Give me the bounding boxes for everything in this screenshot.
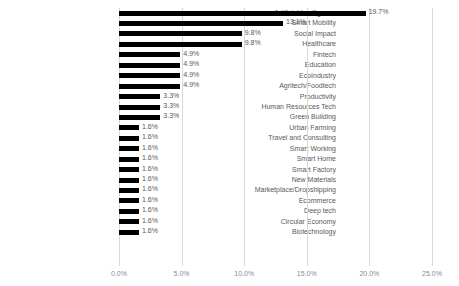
bar-value-label: 4.9%: [183, 59, 199, 69]
bar: [119, 230, 139, 235]
x-tick-label: 15.0%: [297, 269, 317, 279]
bar-row: 1.6%: [119, 123, 432, 133]
bar: [119, 94, 160, 99]
bar-value-label: 1.6%: [142, 132, 158, 142]
x-tick-label: 5.0%: [174, 269, 190, 279]
bar-value-label: 1.6%: [142, 226, 158, 236]
bar: [119, 115, 160, 120]
bar: [119, 209, 139, 214]
bar-row: 1.6%: [119, 217, 432, 227]
bar-row: 13.1%: [119, 18, 432, 28]
bar: [119, 11, 366, 16]
bar-row: 4.9%: [119, 50, 432, 60]
bar-row: 1.6%: [119, 185, 432, 195]
bar-value-label: 4.9%: [183, 49, 199, 59]
bar-row: 19.7%: [119, 8, 432, 18]
bar-value-label: 1.6%: [142, 122, 158, 132]
bar-row: 4.9%: [119, 60, 432, 70]
bar-chart: Artificial IntelligenceSmart MobilitySoc…: [0, 0, 459, 286]
bar-row: 1.6%: [119, 165, 432, 175]
bar: [119, 188, 139, 193]
bar: [119, 84, 180, 89]
bar-row: 1.6%: [119, 154, 432, 164]
bar-row: 9.8%: [119, 29, 432, 39]
bar: [119, 63, 180, 68]
bar-value-label: 1.6%: [142, 143, 158, 153]
bar-value-label: 1.6%: [142, 195, 158, 205]
x-axis-ticks: 0.0%5.0%10.0%15.0%20.0%25.0%: [0, 269, 459, 283]
bar: [119, 42, 242, 47]
bar-value-label: 4.9%: [183, 80, 199, 90]
bar-value-label: 9.8%: [245, 28, 261, 38]
x-tick-label: 20.0%: [359, 269, 379, 279]
bar-value-label: 13.1%: [286, 17, 306, 27]
bar: [119, 31, 242, 36]
bar-row: 1.6%: [119, 144, 432, 154]
bar-value-label: 3.3%: [163, 101, 179, 111]
bar: [119, 136, 139, 141]
bar-value-label: 3.3%: [163, 91, 179, 101]
x-tick-label: 25.0%: [422, 269, 442, 279]
bar-row: 1.6%: [119, 175, 432, 185]
bar: [119, 219, 139, 224]
bar-row: 1.6%: [119, 196, 432, 206]
bar-row: 1.6%: [119, 206, 432, 216]
x-tick-label: 10.0%: [234, 269, 254, 279]
bar-value-label: 1.6%: [142, 164, 158, 174]
bar-row: 9.8%: [119, 39, 432, 49]
bar: [119, 157, 139, 162]
bar: [119, 73, 180, 78]
bar: [119, 146, 139, 151]
bar-value-label: 9.8%: [245, 38, 261, 48]
bar-row: 1.6%: [119, 227, 432, 237]
bar-value-label: 1.6%: [142, 205, 158, 215]
bar-value-label: 3.3%: [163, 111, 179, 121]
bar: [119, 52, 180, 57]
bar-value-label: 19.7%: [369, 7, 389, 17]
x-tick-label: 0.0%: [111, 269, 127, 279]
gridline: [432, 8, 433, 266]
bar-series: 19.7%13.1%9.8%9.8%4.9%4.9%4.9%4.9%3.3%3.…: [119, 8, 432, 238]
bar-row: 4.9%: [119, 71, 432, 81]
bar: [119, 167, 139, 172]
bar: [119, 198, 139, 203]
bar: [119, 178, 139, 183]
bar-value-label: 1.6%: [142, 153, 158, 163]
plot-area: 19.7%13.1%9.8%9.8%4.9%4.9%4.9%4.9%3.3%3.…: [119, 8, 432, 266]
bar-value-label: 1.6%: [142, 216, 158, 226]
bar-value-label: 1.6%: [142, 174, 158, 184]
bar-value-label: 4.9%: [183, 70, 199, 80]
bar: [119, 125, 139, 130]
bar: [119, 21, 283, 26]
bar-value-label: 1.6%: [142, 184, 158, 194]
bar-row: 3.3%: [119, 112, 432, 122]
bar: [119, 105, 160, 110]
bar-row: 1.6%: [119, 133, 432, 143]
